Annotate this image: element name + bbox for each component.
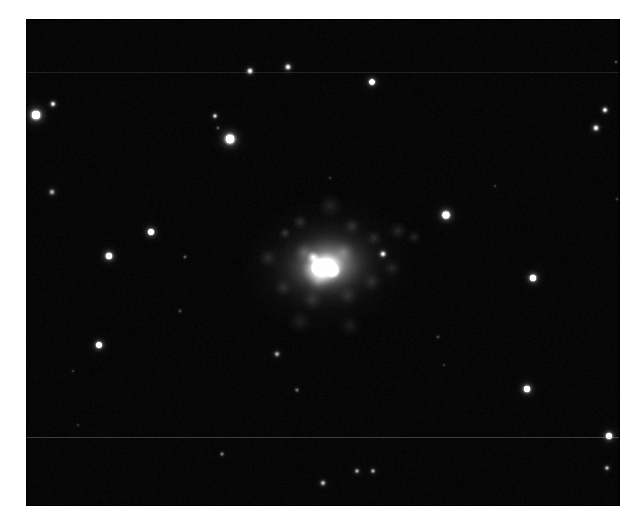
astronomical-image-frame	[26, 19, 620, 506]
figure-page	[0, 0, 636, 524]
star-field-canvas	[26, 19, 620, 506]
